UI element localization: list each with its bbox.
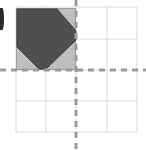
left-edge-bullet-icon xyxy=(0,8,4,30)
figure-canvas xyxy=(0,0,146,150)
geometry-figure xyxy=(0,0,146,150)
